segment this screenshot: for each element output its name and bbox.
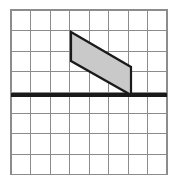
geometry-figure	[0, 0, 178, 186]
figure-canvas	[0, 0, 178, 186]
